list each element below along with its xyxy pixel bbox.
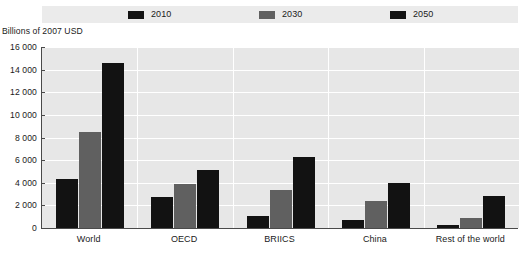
y-tick-label: 6 000 <box>0 155 37 165</box>
bar-briics-2010 <box>247 216 269 228</box>
legend-swatch-2010 <box>128 11 144 19</box>
legend-entry-2050: 2050 <box>390 6 433 23</box>
x-tick-label: BRIICS <box>232 234 327 244</box>
bar-oecd-2010 <box>151 197 173 228</box>
bar-rest-of-the-world-2050 <box>483 196 505 228</box>
x-tick-label: China <box>327 234 422 244</box>
y-tick-label: 2 000 <box>0 200 37 210</box>
legend-entry-2030: 2030 <box>259 6 302 23</box>
y-tick-label: 16 000 <box>0 42 37 52</box>
bar-rest-of-the-world-2030 <box>460 218 482 228</box>
x-tick-label: Rest of the world <box>423 234 518 244</box>
legend-swatch-2050 <box>390 11 406 19</box>
bar-china-2030 <box>365 201 387 228</box>
bar-china-2010 <box>342 220 364 228</box>
legend-entry-2010: 2010 <box>128 6 171 23</box>
bar-briics-2030 <box>270 190 292 228</box>
x-tick-label: World <box>41 234 136 244</box>
group-separator <box>233 47 234 228</box>
bar-china-2050 <box>388 183 410 228</box>
bar-oecd-2030 <box>174 184 196 228</box>
bar-world-2050 <box>102 63 124 228</box>
x-axis-line <box>41 228 518 229</box>
y-tick-label: 10 000 <box>0 110 37 120</box>
y-tick-label: 4 000 <box>0 178 37 188</box>
y-tick-label: 12 000 <box>0 87 37 97</box>
group-separator <box>424 47 425 228</box>
bar-world-2030 <box>79 132 101 228</box>
x-tick-label: OECD <box>136 234 231 244</box>
y-tick-label: 0 <box>0 223 37 233</box>
bar-oecd-2050 <box>197 170 219 228</box>
y-tick-label: 14 000 <box>0 65 37 75</box>
legend-label-2030: 2030 <box>282 10 302 19</box>
chart-legend: 2010 2030 2050 <box>42 6 518 23</box>
legend-label-2050: 2050 <box>413 10 433 19</box>
gridline <box>42 47 519 48</box>
plot-area <box>41 47 519 228</box>
legend-swatch-2030 <box>259 11 275 19</box>
y-tick-label: 8 000 <box>0 133 37 143</box>
bar-world-2010 <box>56 179 78 228</box>
bar-briics-2050 <box>293 157 315 228</box>
group-separator <box>328 47 329 228</box>
y-axis-title: Billions of 2007 USD <box>2 26 83 36</box>
legend-label-2010: 2010 <box>151 10 171 19</box>
group-separator <box>137 47 138 228</box>
